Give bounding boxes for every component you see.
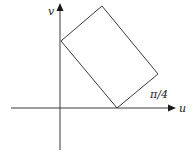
uv-plane-diagram: v u π/4 — [0, 0, 194, 160]
v-axis-label: v — [48, 5, 55, 18]
u-axis-arrowhead-icon — [168, 105, 176, 112]
rotated-rectangle — [61, 6, 158, 108]
u-axis-label: u — [179, 102, 186, 115]
angle-label: π/4 — [149, 88, 168, 101]
v-axis-arrowhead-icon — [57, 3, 64, 11]
